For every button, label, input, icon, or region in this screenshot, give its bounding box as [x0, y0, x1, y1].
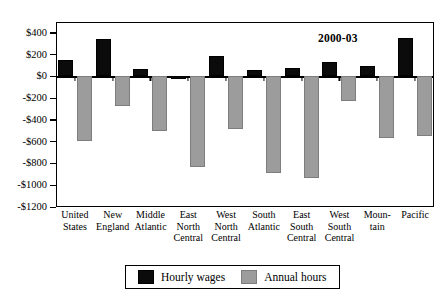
bar-group [283, 22, 321, 207]
bar-annual-hours[interactable] [304, 76, 319, 177]
x-axis-label: Moun- tain [358, 209, 396, 244]
chart-legend: Hourly wagesAnnual hours [125, 265, 340, 289]
bar-hourly-wages[interactable] [171, 76, 186, 78]
bar-annual-hours[interactable] [115, 76, 130, 105]
bar-group [358, 22, 396, 207]
y-axis-tick: -$1000 [0, 179, 56, 191]
plot-area [56, 22, 434, 207]
bar-group [169, 22, 207, 207]
x-axis-label: West North Central [207, 209, 245, 244]
bar-hourly-wages[interactable] [58, 60, 73, 76]
bar-groups [56, 22, 434, 207]
y-axis-tick: -$600 [0, 136, 56, 148]
bar-hourly-wages[interactable] [285, 68, 300, 77]
y-axis-tick: $0 [0, 70, 56, 82]
y-axis-tick: -$400 [0, 114, 56, 126]
bar-hourly-wages[interactable] [247, 70, 262, 77]
bar-annual-hours[interactable] [77, 76, 92, 140]
bar-annual-hours[interactable] [379, 76, 394, 138]
bar-annual-hours[interactable] [417, 76, 432, 136]
bar-group [321, 22, 359, 207]
x-axis-label: West South Central [321, 209, 359, 244]
y-axis-tick: $200 [0, 49, 56, 61]
bar-hourly-wages[interactable] [322, 62, 337, 76]
gray-square-icon [241, 270, 257, 284]
bar-annual-hours[interactable] [152, 76, 167, 130]
legend-label: Hourly wages [161, 271, 225, 283]
y-axis-tick: -$200 [0, 92, 56, 104]
chart-root: $400$200$0-$200-$400-$600-$800-$1000-$12… [0, 0, 448, 308]
x-axis-label: South Atlantic [245, 209, 283, 244]
legend-label: Annual hours [264, 271, 326, 283]
x-axis-label: United States [56, 209, 94, 244]
black-square-icon [138, 270, 154, 284]
bar-annual-hours[interactable] [228, 76, 243, 128]
y-axis-tick: -$800 [0, 157, 56, 169]
bar-group [56, 22, 94, 207]
legend-item[interactable]: Hourly wages [138, 270, 225, 284]
x-axis-tick [301, 76, 302, 81]
x-axis-tick [188, 76, 189, 81]
x-axis-tick [339, 76, 340, 81]
x-axis-tick [150, 76, 151, 81]
legend-item[interactable]: Annual hours [241, 270, 326, 284]
y-axis: $400$200$0-$200-$400-$600-$800-$1000-$12… [0, 22, 56, 207]
y-axis-tick: $400 [0, 27, 56, 39]
bar-group [396, 22, 434, 207]
period-annotation: 2000-03 [318, 32, 358, 44]
bar-annual-hours[interactable] [341, 76, 356, 101]
x-axis-label: New England [94, 209, 132, 244]
bar-annual-hours[interactable] [266, 76, 281, 173]
x-axis-tick [377, 76, 378, 81]
bar-hourly-wages[interactable] [398, 38, 413, 76]
bar-group [132, 22, 170, 207]
x-axis-tick [415, 76, 416, 81]
x-axis-labels: United StatesNew EnglandMiddle AtlanticE… [56, 209, 434, 244]
x-axis-tick [112, 76, 113, 81]
bar-group [207, 22, 245, 207]
x-axis-tick [263, 76, 264, 81]
bar-hourly-wages[interactable] [96, 39, 111, 76]
bar-annual-hours[interactable] [190, 76, 205, 166]
bar-hourly-wages[interactable] [133, 69, 148, 77]
x-axis-tick [74, 76, 75, 81]
x-axis-label: Middle Atlantic [132, 209, 170, 244]
bar-hourly-wages[interactable] [360, 66, 375, 77]
bar-hourly-wages[interactable] [209, 56, 224, 77]
bar-group [94, 22, 132, 207]
x-axis-label: East North Central [169, 209, 207, 244]
x-axis-label: East South Central [283, 209, 321, 244]
y-axis-tick: -$1200 [0, 201, 56, 213]
x-axis-tick [226, 76, 227, 81]
x-axis-label: Pacific [396, 209, 434, 244]
bar-group [245, 22, 283, 207]
